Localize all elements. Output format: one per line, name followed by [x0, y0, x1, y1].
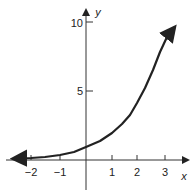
y-tick-label: 10	[71, 17, 83, 29]
chart-svg: −2 −1 1 2 3 5 10 x y	[0, 0, 196, 196]
y-axis-label: y	[94, 6, 102, 18]
y-ticks	[86, 22, 93, 91]
x-tick-label: 3	[162, 166, 168, 178]
x-tick-label: −2	[25, 166, 38, 178]
x-tick-label: 1	[109, 166, 115, 178]
x-tick-label: −1	[54, 166, 67, 178]
chart: −2 −1 1 2 3 5 10 x y	[0, 0, 196, 196]
y-tick-label: 5	[77, 85, 83, 97]
x-axis-label: x	[180, 170, 187, 182]
exponential-curve	[16, 28, 174, 159]
x-tick-label: 2	[134, 166, 140, 178]
